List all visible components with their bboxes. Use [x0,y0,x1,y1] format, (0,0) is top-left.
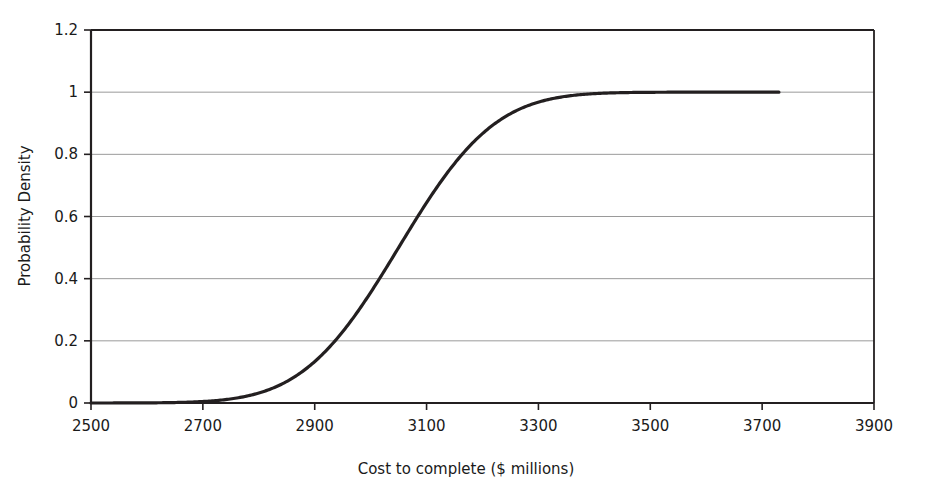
y-tick-label: 1.2 [54,21,78,39]
x-tick-label: 3300 [519,417,557,435]
y-tick-label: 0.6 [54,208,78,226]
x-tick-label: 3700 [743,417,781,435]
x-axis-title: Cost to complete ($ millions) [358,460,575,478]
y-tick-label: 0.4 [54,270,78,288]
y-tick-label: 0 [68,394,78,412]
x-tick-label: 2900 [296,417,334,435]
chart-page: 25002700290031003300350037003900 00.20.4… [0,0,925,503]
y-tick-label: 0.2 [54,332,78,350]
chart-background [0,0,925,503]
y-tick-label: 1 [68,83,78,101]
x-tick-label: 3900 [855,417,893,435]
y-axis-title: Probability Density [16,145,34,286]
probability-density-chart: 25002700290031003300350037003900 00.20.4… [0,0,925,503]
y-tick-label: 0.8 [54,145,78,163]
x-tick-label: 3100 [407,417,445,435]
x-tick-label: 2700 [184,417,222,435]
x-tick-label: 3500 [631,417,669,435]
x-tick-label: 2500 [72,417,110,435]
